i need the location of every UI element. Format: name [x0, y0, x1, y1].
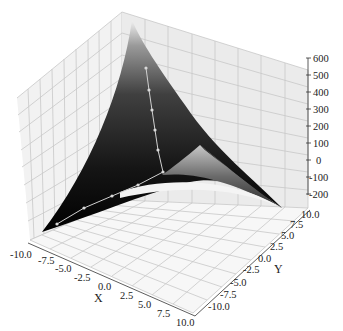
y-tick-neg10: -10.0	[208, 301, 230, 312]
x-tick-7.5: 7.5	[157, 308, 170, 319]
z-axis: 600 500 400 300 200 100 0 -100 -200	[306, 53, 329, 200]
z-tick-neg100: -100	[309, 172, 328, 183]
z-tick-neg200: -200	[309, 189, 328, 200]
y-axis-label: Y	[274, 262, 283, 276]
z-tick-400: 400	[313, 87, 329, 98]
y-tick-10: 10.0	[301, 209, 319, 220]
z-tick-300: 300	[313, 104, 329, 115]
x-tick-neg2.5: -2.5	[74, 272, 91, 283]
x-tick-5: 5.0	[138, 299, 151, 310]
y-tick-neg5: -5.0	[230, 277, 247, 288]
z-tick-100: 100	[313, 138, 329, 149]
x-tick-10: 10.0	[176, 317, 194, 328]
y-tick-7.5: 7.5	[290, 219, 303, 230]
y-tick-neg7.5: -7.5	[220, 289, 237, 300]
x-tick-neg7.5: -7.5	[38, 255, 55, 266]
y-tick-2.5: 2.5	[270, 241, 283, 252]
z-tick-200: 200	[313, 121, 329, 132]
x-tick-2.5: 2.5	[120, 290, 133, 301]
z-tick-600: 600	[313, 53, 329, 64]
x-tick-neg10: -10.0	[10, 249, 32, 260]
x-axis-label: X	[94, 291, 103, 305]
y-tick-5: 5.0	[281, 230, 294, 241]
z-tick-500: 500	[313, 70, 329, 81]
x-tick-neg5: -5.0	[55, 263, 72, 274]
y-tick-neg2.5: -2.5	[243, 264, 260, 275]
z-tick-0: 0	[316, 155, 321, 166]
y-tick-0: 0.0	[258, 253, 271, 264]
surface-plot-3d: 600 500 400 300 200 100 0 -100 -200 -10.…	[0, 0, 343, 331]
